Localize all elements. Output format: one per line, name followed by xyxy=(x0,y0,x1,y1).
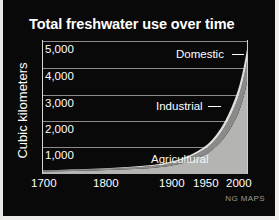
x-tick-2000: 2000 xyxy=(226,177,252,189)
y-tick-5000: 5,000 xyxy=(45,43,74,55)
y-tick-2000: 2,000 xyxy=(45,123,74,135)
series-label-agricultural: Agricultural xyxy=(151,153,209,165)
series-label-domestic: Domestic xyxy=(176,48,224,60)
y-tick-1000: 1,000 xyxy=(45,149,74,161)
plot-right-edge xyxy=(247,40,248,174)
y-tick-3000: 3,000 xyxy=(45,97,74,109)
x-tick-1950: 1950 xyxy=(193,177,219,189)
x-tick-1700: 1700 xyxy=(31,177,57,189)
y-axis-line xyxy=(42,40,43,174)
x-tick-1800: 1800 xyxy=(93,177,119,189)
chart-title: Total freshwater use over time xyxy=(29,16,234,32)
leader-line-domestic xyxy=(232,54,244,55)
chart-figure: Total freshwater use over time Cubic kil… xyxy=(0,0,279,220)
y-axis-label: Cubic kilometers xyxy=(15,51,30,171)
x-tick-1900: 1900 xyxy=(159,177,185,189)
leader-line-industrial xyxy=(208,106,221,107)
credit-text: NG MAPS xyxy=(225,194,265,203)
series-label-industrial: Industrial xyxy=(156,100,203,112)
y-tick-4000: 4,000 xyxy=(45,70,74,82)
